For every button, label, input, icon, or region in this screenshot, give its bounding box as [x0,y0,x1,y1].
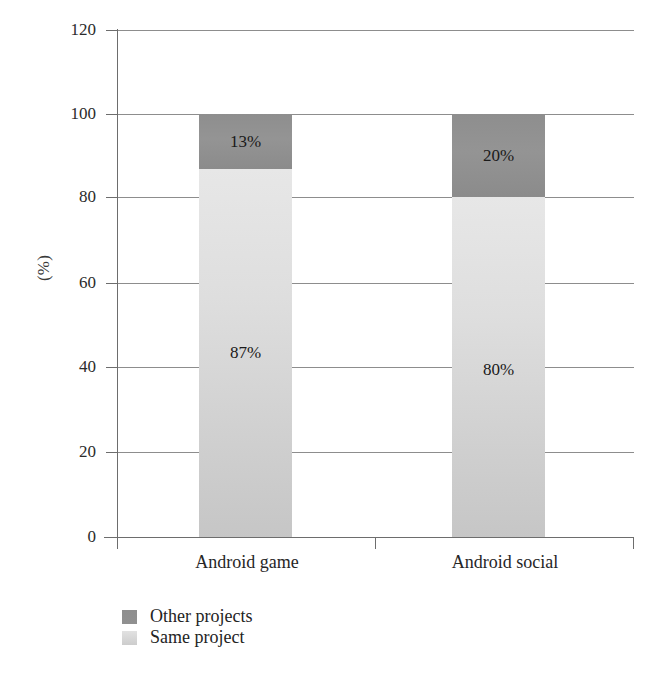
bar-segment-android-game-same-project[interactable]: 87% [199,169,292,537]
y-tick-mark-60 [106,283,118,284]
gridline-40 [117,367,634,368]
bar-segment-android-game-other-projects[interactable]: 13% [199,114,292,169]
x-axis-tick-right [633,537,634,549]
y-tick-label-40: 40 [36,357,96,377]
gridline-120 [117,30,634,31]
x-axis-category-android-game: Android game [147,552,347,573]
y-tick-mark-80 [106,197,118,198]
bar-segment-android-social-same-project[interactable]: 80% [452,197,545,537]
y-tick-mark-40 [106,367,118,368]
legend-item-same-project[interactable]: Same project [122,627,252,648]
gridline-100 [117,114,634,115]
legend-label-same-project: Same project [150,627,244,648]
gridline-60 [117,283,634,284]
legend: Other projects Same project [122,606,252,648]
gridline-80 [117,197,634,198]
x-axis-line [104,537,634,538]
y-tick-label-120: 120 [36,20,96,40]
bar-value-android-game-same-project: 87% [199,343,292,363]
legend-swatch-icon-same-project [122,631,137,645]
stacked-bar-chart: (%) 120 100 80 60 40 20 0 13% 87 [0,0,654,673]
y-tick-label-80: 80 [36,187,96,207]
y-tick-label-60: 60 [36,273,96,293]
y-tick-label-20: 20 [36,442,96,462]
bar-value-android-game-other-projects: 13% [199,132,292,152]
y-tick-mark-120 [106,30,118,31]
x-axis-tick-middle [375,537,376,549]
legend-item-other-projects[interactable]: Other projects [122,606,252,627]
gridline-20 [117,452,634,453]
y-tick-label-100: 100 [36,104,96,124]
legend-label-other-projects: Other projects [150,606,252,627]
y-tick-label-0: 0 [36,527,96,547]
x-axis-tick-left [117,537,118,549]
bar-value-android-social-other-projects: 20% [452,146,545,166]
y-tick-mark-100 [106,114,118,115]
bar-segment-android-social-other-projects[interactable]: 20% [452,114,545,197]
x-axis-category-android-social: Android social [400,552,610,573]
legend-swatch-icon-other-projects [122,610,137,624]
y-tick-mark-20 [106,452,118,453]
bar-value-android-social-same-project: 80% [452,360,545,380]
